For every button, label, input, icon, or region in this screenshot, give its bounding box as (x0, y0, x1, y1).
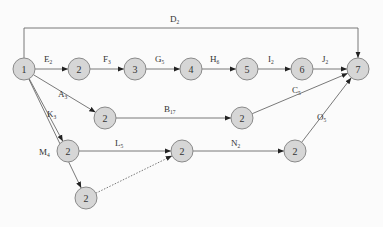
edge-label-f: F3 (103, 54, 111, 65)
node-label: 3 (133, 64, 138, 75)
node-n2b: 2 (94, 107, 116, 129)
edge-label-k: K3 (47, 109, 57, 120)
node-label: 5 (245, 64, 250, 75)
node-n2a: 2 (68, 58, 90, 80)
node-n2d: 2 (57, 140, 79, 162)
node-label: 1 (22, 64, 27, 75)
edge-label-n: N2 (231, 138, 241, 149)
node-label: 4 (189, 64, 194, 75)
edge-m (29, 79, 81, 188)
node-label: 2 (66, 146, 71, 157)
node-label: 7 (356, 64, 361, 75)
node-n5: 5 (236, 58, 258, 80)
edge-label-b: B17 (164, 104, 176, 115)
edge-label-l: L5 (115, 138, 124, 149)
network-diagram: D2E2F3G5H6I2J2A3B17C5K3L5N2O5M4 12345672… (0, 0, 383, 227)
node-n2g: 2 (75, 187, 97, 209)
node-n2f: 2 (284, 140, 306, 162)
edge-label-j: J2 (322, 54, 329, 65)
edge-label-e: E2 (44, 54, 53, 65)
node-n7: 7 (347, 58, 369, 80)
node-n1: 1 (13, 58, 35, 80)
node-label: 2 (77, 64, 82, 75)
edge-label-o: O5 (317, 112, 327, 123)
edge-label-a: A3 (58, 89, 68, 100)
node-n4: 4 (180, 58, 202, 80)
edge-label-d: D2 (170, 14, 180, 25)
node-label: 6 (300, 64, 305, 75)
edge-label-c: C5 (292, 85, 301, 96)
node-n2e: 2 (171, 140, 193, 162)
node-n3: 3 (124, 58, 146, 80)
node-label: 2 (84, 193, 89, 204)
edge-label-h: H6 (210, 54, 220, 65)
node-n6: 6 (291, 58, 313, 80)
edge-label-m: M4 (39, 147, 50, 158)
node-label: 2 (240, 113, 245, 124)
node-n2c: 2 (231, 107, 253, 129)
node-label: 2 (180, 146, 185, 157)
edge-label-i: I2 (268, 54, 274, 65)
edge-o (302, 78, 352, 143)
edge-dummy (96, 156, 172, 193)
node-label: 2 (103, 113, 108, 124)
node-label: 2 (293, 146, 298, 157)
edge-d (24, 28, 358, 58)
edge-label-g: G5 (155, 54, 165, 65)
